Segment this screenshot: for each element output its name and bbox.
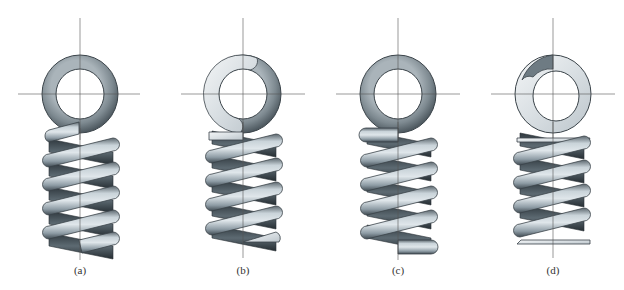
spring-end-types-figure: (a) (b) (c) (d) <box>0 0 624 290</box>
caption-b: (b) <box>168 264 318 276</box>
caption-c: (c) <box>323 264 473 276</box>
caption-a: (a) <box>5 264 155 276</box>
spring-coil-d <box>514 122 591 258</box>
spring-coil-c <box>359 122 438 260</box>
centerlines-c <box>336 18 460 140</box>
figure-canvas <box>0 0 624 290</box>
panel-c <box>336 18 460 260</box>
centerlines-d <box>491 18 615 140</box>
panel-a <box>18 18 140 260</box>
panel-b <box>181 18 305 258</box>
panel-d <box>491 18 615 258</box>
caption-d: (d) <box>478 264 624 276</box>
spring-coil-a <box>43 122 120 260</box>
spring-coil-b <box>206 122 283 258</box>
centerlines-b <box>181 18 305 140</box>
